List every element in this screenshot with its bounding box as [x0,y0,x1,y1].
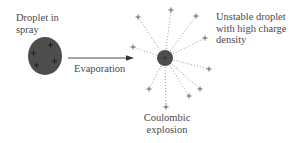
large-droplet [28,37,62,75]
evaporation-arrow-icon [68,55,134,60]
evaporation-label: Evaporation [74,63,125,75]
unstable-droplet [157,50,173,66]
droplet-in-spray-label: Droplet in spray [16,12,59,35]
coulombic-explosion-label: Coulombic explosion [142,112,192,135]
unstable-droplet-label: Unstable droplet with high charge densit… [216,11,286,46]
